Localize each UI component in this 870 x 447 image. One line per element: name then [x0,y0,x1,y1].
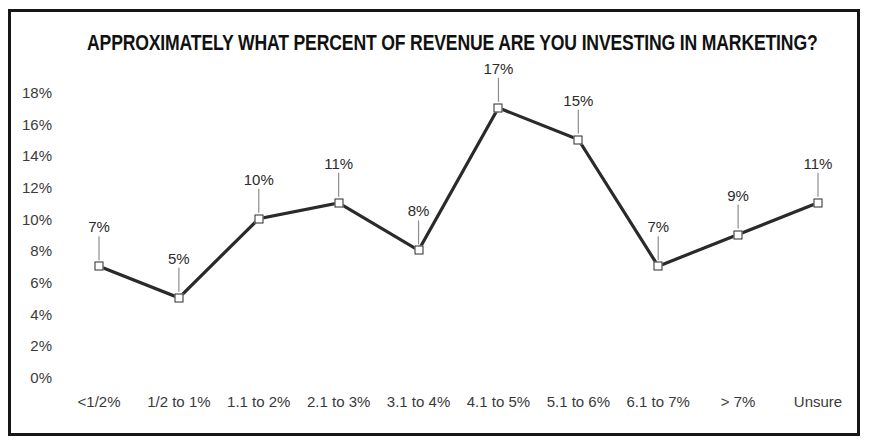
data-point-marker [654,262,663,271]
x-axis-tick-label: Unsure [794,393,842,410]
x-axis-tick-label: 1.1 to 2% [227,393,290,410]
y-axis-tick-label: 18% [0,84,52,101]
y-axis-tick-label: 6% [0,274,52,291]
x-axis-tick-label: 2.1 to 3% [307,393,370,410]
y-axis-tick-label: 0% [0,369,52,386]
x-axis-tick-label: 6.1 to 7% [627,393,690,410]
data-point-label: 15% [563,92,593,109]
series-polyline [99,108,818,298]
data-point-marker [814,198,823,207]
data-point-label: 7% [647,218,669,235]
y-axis-tick-label: 4% [0,305,52,322]
y-axis-tick-label: 2% [0,337,52,354]
y-axis-tick-label: 16% [0,115,52,132]
x-axis-tick-label: 5.1 to 6% [547,393,610,410]
data-point-label: 8% [408,202,430,219]
x-axis-tick-label: > 7% [721,393,756,410]
data-point-marker [574,135,583,144]
data-point-label: 11% [804,155,833,172]
data-point-marker [414,246,423,255]
data-point-label: 9% [727,187,749,204]
data-point-marker [494,103,503,112]
data-point-label: 11% [324,155,353,172]
y-axis-tick-label: 14% [0,147,52,164]
data-line-series [0,0,870,447]
chart-figure: APPROXIMATELY WHAT PERCENT OF REVENUE AR… [0,0,870,447]
data-point-marker [734,230,743,239]
data-point-marker [174,293,183,302]
data-point-label: 10% [244,171,274,188]
y-axis-tick-label: 8% [0,242,52,259]
x-axis-tick-label: 1/2 to 1% [147,393,210,410]
data-point-marker [334,198,343,207]
y-axis-tick-label: 10% [0,210,52,227]
data-point-marker [254,214,263,223]
x-axis-tick-label: <1/2% [78,393,121,410]
plot-area: 18%16%14%12%10%8%6%4%2%0%<1/2%1/2 to 1%1… [0,0,870,447]
data-point-label: 5% [168,250,190,267]
x-axis-tick-label: 3.1 to 4% [387,393,450,410]
data-point-marker [95,262,104,271]
y-axis-tick-label: 12% [0,179,52,196]
data-point-label: 17% [483,60,513,77]
data-point-label: 7% [88,218,110,235]
x-axis-tick-label: 4.1 to 5% [467,393,530,410]
